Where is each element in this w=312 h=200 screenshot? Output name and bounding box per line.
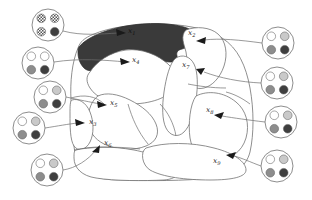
marble-4[interactable] xyxy=(13,112,45,144)
marble-9-dot-3 xyxy=(266,168,275,177)
marble-2-dot-3 xyxy=(27,65,36,74)
marble-1-dot-2 xyxy=(50,14,59,23)
marble-8-dot-1 xyxy=(270,111,279,120)
marble-6-dot-4 xyxy=(280,45,289,54)
marble-2-ring xyxy=(22,47,54,79)
marble-2[interactable] xyxy=(22,47,54,79)
marble-6-dot-1 xyxy=(267,32,276,41)
marble-4-dot-4 xyxy=(31,130,40,139)
marble-5-dot-4 xyxy=(49,172,58,181)
marble-5-dot-2 xyxy=(49,159,58,168)
marble-5-dot-1 xyxy=(36,159,45,168)
marble-1[interactable] xyxy=(32,9,64,41)
marble-1-dot-3 xyxy=(37,27,46,36)
marble-7-ring xyxy=(261,67,293,99)
marble-4-dot-3 xyxy=(18,130,27,139)
marble-7-dot-3 xyxy=(266,85,275,94)
region-diagram: x1x2x3x4x5x6x7x8x9 xyxy=(0,0,312,200)
marble-3-dot-4 xyxy=(52,99,61,108)
marble-3-dot-3 xyxy=(39,99,48,108)
marble-6-ring xyxy=(262,27,294,59)
marble-5-dot-3 xyxy=(36,172,45,181)
marble-6-dot-3 xyxy=(267,45,276,54)
marble-5[interactable] xyxy=(31,154,63,186)
marble-7-dot-4 xyxy=(279,85,288,94)
marble-3-ring xyxy=(34,81,66,113)
marble-9-dot-1 xyxy=(266,155,275,164)
marble-3-dot-1 xyxy=(39,86,48,95)
marble-1-ring xyxy=(32,9,64,41)
marble-8-dot-3 xyxy=(270,124,279,133)
marble-7[interactable] xyxy=(261,67,293,99)
marble-9-dot-4 xyxy=(279,168,288,177)
marble-2-dot-2 xyxy=(40,52,49,61)
marble-8[interactable] xyxy=(265,106,297,138)
marble-8-dot-4 xyxy=(283,124,292,133)
marble-8-ring xyxy=(265,106,297,138)
marble-1-dot-4 xyxy=(50,27,59,36)
marble-6-dot-2 xyxy=(280,32,289,41)
marble-1-dot-1 xyxy=(37,14,46,23)
marble-4-ring xyxy=(13,112,45,144)
marble-5-ring xyxy=(31,154,63,186)
figure-root: x1x2x3x4x5x6x7x8x9 xyxy=(0,0,312,200)
marble-2-dot-1 xyxy=(27,52,36,61)
marble-3-dot-2 xyxy=(52,86,61,95)
marble-8-dot-2 xyxy=(283,111,292,120)
marble-6[interactable] xyxy=(262,27,294,59)
marble-2-dot-4 xyxy=(40,65,49,74)
marble-7-dot-2 xyxy=(279,72,288,81)
marble-9-ring xyxy=(261,150,293,182)
marble-9[interactable] xyxy=(261,150,293,182)
marble-7-dot-1 xyxy=(266,72,275,81)
marble-4-dot-1 xyxy=(18,117,27,126)
marble-3[interactable] xyxy=(34,81,66,113)
marble-4-dot-2 xyxy=(31,117,40,126)
marble-9-dot-2 xyxy=(279,155,288,164)
